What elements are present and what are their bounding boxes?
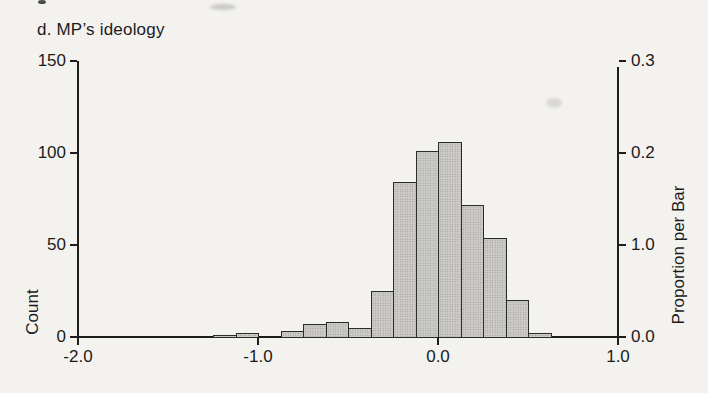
- histogram-bar: [438, 142, 462, 338]
- y-left-tick-label: 0: [22, 327, 66, 347]
- y-left-tick: [70, 60, 77, 62]
- x-tick: [437, 337, 439, 345]
- y-right-tick-label: 1.0: [631, 235, 675, 255]
- histogram-bar: [348, 328, 372, 338]
- histogram-bar: [326, 322, 350, 338]
- histogram-bar: [281, 331, 305, 338]
- y-left-tick-label: 150: [22, 51, 66, 71]
- y-left-tick: [70, 244, 77, 246]
- y-right-tick: [619, 336, 626, 338]
- x-tick-label: 0.0: [412, 347, 464, 367]
- x-tick: [617, 337, 619, 345]
- y-left-tick-label: 50: [22, 235, 66, 255]
- histogram-bar: [303, 324, 327, 338]
- y-right-tick: [619, 60, 626, 62]
- histogram-bar: [213, 335, 237, 338]
- histogram-bar: [371, 291, 395, 338]
- histogram-bar: [393, 182, 417, 338]
- histogram-bar: [528, 333, 552, 338]
- y-right-tick-label: 0.2: [631, 143, 675, 163]
- y-right-tick-label: 0.0: [631, 327, 675, 347]
- histogram-figure: d. MP’s ideology Count Proportion per Ba…: [0, 0, 708, 393]
- y-left-tick-label: 100: [22, 143, 66, 163]
- x-tick-label: 1.0: [592, 347, 644, 367]
- y-right-tick: [619, 244, 626, 246]
- y-right-tick-label: 0.3: [631, 51, 675, 71]
- right-axis-line: [617, 67, 619, 338]
- x-tick-label: -2.0: [52, 347, 104, 367]
- histogram-bar: [483, 238, 507, 338]
- x-tick: [257, 337, 259, 345]
- y-left-tick: [70, 336, 77, 338]
- y-left-tick: [70, 152, 77, 154]
- y-right-tick: [619, 152, 626, 154]
- histogram-bar: [461, 205, 485, 338]
- left-axis-line: [77, 61, 79, 338]
- histogram-bar: [236, 333, 260, 338]
- plot-area: 0501001500.01.00.20.3-2.0-1.00.01.0: [0, 0, 708, 393]
- histogram-bar: [506, 300, 530, 338]
- x-tick-label: -1.0: [232, 347, 284, 367]
- x-tick: [77, 337, 79, 345]
- histogram-bar: [416, 151, 440, 338]
